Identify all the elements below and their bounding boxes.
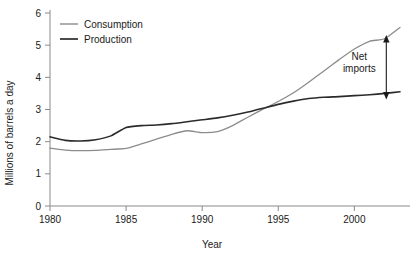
- x-tick-label: 2000: [343, 214, 366, 225]
- legend-label-consumption: Consumption: [84, 19, 143, 30]
- x-tick-label: 1995: [267, 214, 290, 225]
- y-axis-title: Millions of barrels a day: [4, 80, 15, 185]
- net-imports-label-line2: imports: [343, 63, 376, 74]
- x-axis-title: Year: [202, 239, 223, 250]
- x-tick-label: 1990: [191, 214, 214, 225]
- chart-container: 0123456 19801985199019952000 Millions of…: [0, 0, 415, 257]
- x-tick-label: 1985: [115, 214, 138, 225]
- y-tick-group: 0123456: [35, 8, 50, 212]
- series-line-consumption: [50, 27, 400, 150]
- y-tick-label: 1: [35, 168, 41, 179]
- y-tick-label: 3: [35, 104, 41, 115]
- y-tick-label: 4: [35, 72, 41, 83]
- net-imports-annotation: Net imports: [343, 35, 390, 100]
- y-tick-label: 5: [35, 40, 41, 51]
- series-group: [50, 27, 400, 150]
- y-tick-label: 6: [35, 8, 41, 19]
- x-tick-label: 1980: [39, 214, 62, 225]
- y-axis: 0123456: [35, 8, 50, 212]
- series-line-production: [50, 92, 400, 141]
- legend-label-production: Production: [84, 34, 132, 45]
- y-tick-label: 2: [35, 136, 41, 147]
- net-imports-label-line1: Net: [352, 51, 368, 62]
- line-chart: 0123456 19801985199019952000 Millions of…: [0, 0, 415, 257]
- y-tick-label: 0: [35, 201, 41, 212]
- x-tick-group: 19801985199019952000: [39, 206, 366, 225]
- chart-legend: ConsumptionProduction: [60, 19, 143, 45]
- net-imports-arrowhead-bottom: [383, 92, 389, 100]
- x-axis: 19801985199019952000: [39, 206, 410, 225]
